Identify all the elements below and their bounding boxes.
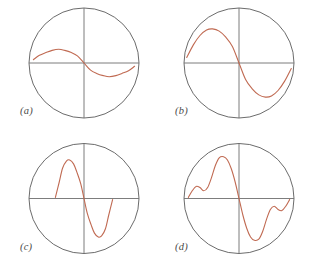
panel-c: (c): [0, 135, 155, 270]
figure-panel-grid: (a) (b) (c) (d): [0, 0, 310, 271]
panel-b-label: (b): [175, 106, 188, 117]
panel-c-label: (c): [20, 242, 32, 253]
panel-d: (d): [155, 135, 310, 270]
panel-b: (b): [155, 0, 310, 135]
panel-d-label: (d): [175, 242, 188, 253]
panel-a: (a): [0, 0, 155, 135]
panel-a-label: (a): [20, 106, 33, 117]
